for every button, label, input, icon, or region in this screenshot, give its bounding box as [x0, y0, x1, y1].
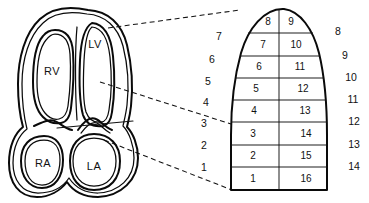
segment-number-right-row4: 12 — [297, 83, 309, 94]
outer-label-right-13: 13 — [348, 138, 360, 150]
segment-number-left-row4: 5 — [253, 83, 259, 94]
outer-label-right-10: 10 — [345, 71, 357, 83]
outer-label-left-5: 5 — [205, 75, 211, 87]
segment-number-left-row1: 8 — [265, 16, 271, 27]
segment-number-left-row8: 1 — [250, 173, 256, 184]
segment-number-left-row3: 6 — [256, 61, 262, 72]
segment-model-layer: 8 7 6 5 4 3 2 1 9 10 11 12 13 14 15 16 7… — [0, 0, 369, 203]
heart-segment-figure: RV LV RA LA 8 7 6 5 4 3 2 1 9 10 1 — [0, 0, 369, 203]
outer-label-left-3: 3 — [201, 117, 207, 129]
outer-label-left-7: 7 — [216, 30, 222, 42]
outer-label-right-8: 8 — [335, 25, 341, 37]
segment-number-right-row8: 16 — [300, 173, 312, 184]
outer-label-right-12: 12 — [348, 115, 360, 127]
segment-number-left-row5: 4 — [251, 105, 257, 116]
segment-number-left-row6: 3 — [250, 128, 256, 139]
segment-number-right-row3: 11 — [295, 61, 306, 72]
segment-number-right-row6: 14 — [300, 128, 312, 139]
outer-label-left-1: 1 — [201, 161, 207, 173]
outer-label-left-2: 2 — [201, 139, 207, 151]
outer-label-right-11: 11 — [348, 93, 359, 105]
outer-label-right-14: 14 — [348, 160, 360, 172]
segment-number-right-row2: 10 — [290, 39, 302, 50]
outer-label-left-4: 4 — [203, 96, 209, 108]
segment-number-left-row7: 2 — [250, 150, 256, 161]
outer-label-left-6: 6 — [209, 53, 215, 65]
segment-number-left-row2: 7 — [260, 39, 266, 50]
segment-number-right-row1: 9 — [288, 16, 294, 27]
outer-label-right-9: 9 — [342, 49, 348, 61]
segment-number-right-row7: 15 — [300, 150, 312, 161]
segment-number-right-row5: 13 — [299, 105, 311, 116]
